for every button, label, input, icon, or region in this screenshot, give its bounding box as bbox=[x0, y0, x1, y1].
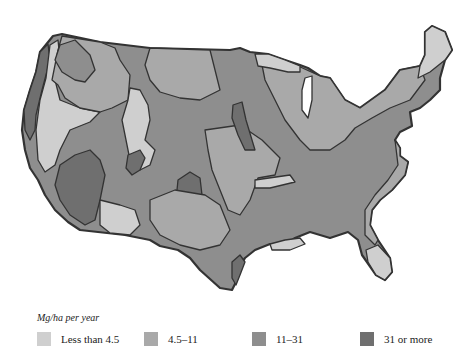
legend-item-31-or-more: 31 or more bbox=[360, 332, 432, 346]
legend-swatch bbox=[144, 332, 158, 346]
legend-item-less-than-4-5: Less than 4.5 bbox=[37, 332, 119, 346]
florida-light bbox=[366, 245, 392, 280]
legend-swatch bbox=[37, 332, 51, 346]
legend: Less than 4.5 4.5–11 11–31 31 or more bbox=[0, 332, 462, 348]
legend-label: Less than 4.5 bbox=[61, 333, 119, 345]
legend-label: 11–31 bbox=[276, 333, 303, 345]
legend-swatch bbox=[360, 332, 374, 346]
texas-gulf-dark bbox=[232, 255, 245, 285]
legend-label: 31 or more bbox=[384, 333, 432, 345]
legend-title: Mg/ha per year bbox=[37, 312, 99, 323]
us-map bbox=[0, 0, 462, 300]
legend-label: 4.5–11 bbox=[168, 333, 198, 345]
legend-item-11-to-31: 11–31 bbox=[252, 332, 303, 346]
legend-item-4-5-to-11: 4.5–11 bbox=[144, 332, 198, 346]
legend-swatch bbox=[252, 332, 266, 346]
